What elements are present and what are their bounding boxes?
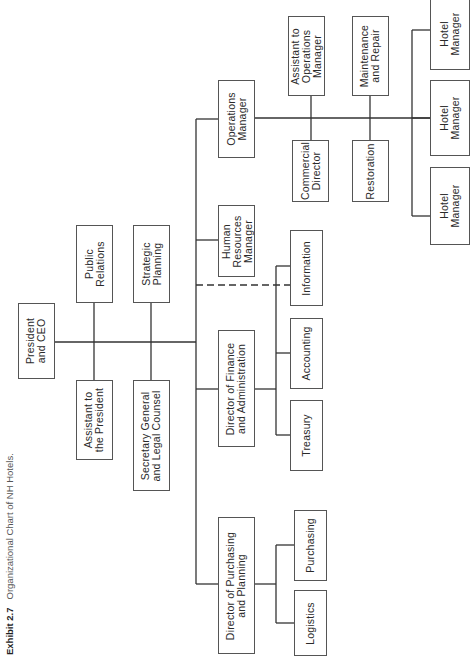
accounting-label: Accounting	[301, 327, 312, 381]
assistant-president-label: Assistant to the President	[84, 388, 106, 452]
caption-title: Organizational Chart of NH Hotels.	[4, 453, 15, 599]
box-public-relations: Public Relations	[76, 225, 113, 303]
restoration-label: Restoration	[365, 143, 376, 199]
box-information: Information	[290, 230, 323, 306]
hotel-manager-2-label: Hotel Manager	[439, 97, 461, 140]
assistant-operations-label: Assistant to Operations Manager	[290, 28, 323, 85]
box-strategic-planning: Strategic Planning	[133, 225, 170, 303]
hotel-manager-3-label: Hotel Manager	[439, 185, 461, 228]
secretary-general-label: Secretary General and Legal Counsel	[141, 390, 163, 481]
information-label: Information	[301, 241, 312, 296]
box-purchasing: Purchasing	[294, 510, 327, 581]
box-assistant-president: Assistant to the President	[76, 380, 113, 460]
public-relations-label: Public Relations	[84, 241, 106, 287]
strategic-planning-label: Strategic Planning	[141, 242, 163, 285]
box-treasury: Treasury	[290, 400, 323, 471]
president-label: President and CEO	[26, 318, 48, 364]
human-resources-label: Human Resources Manager	[220, 215, 253, 267]
purchasing-label: Purchasing	[305, 518, 316, 573]
operations-manager-label: Operations Manager	[226, 92, 248, 145]
box-logistics: Logistics	[294, 590, 327, 656]
logistics-label: Logistics	[305, 602, 316, 645]
maintenance-repair-label: Maintenance and Repair	[360, 25, 382, 87]
box-human-resources: Human Resources Manager	[218, 205, 255, 277]
box-director-finance: Director of Finance and Administration	[218, 330, 255, 447]
box-operations-manager: Operations Manager	[218, 80, 255, 158]
director-finance-label: Director of Finance and Administration	[226, 342, 248, 435]
hotel-manager-1-label: Hotel Manager	[439, 13, 461, 56]
box-accounting: Accounting	[290, 318, 323, 389]
box-assistant-operations: Assistant to Operations Manager	[288, 16, 325, 96]
box-president: President and CEO	[18, 303, 55, 379]
box-hotel-manager-1: Hotel Manager	[430, 0, 470, 70]
box-maintenance-repair: Maintenance and Repair	[352, 16, 389, 96]
exhibit-number: Exhibit 2.7	[4, 607, 15, 655]
box-hotel-manager-3: Hotel Manager	[430, 167, 470, 245]
box-restoration: Restoration	[352, 140, 389, 202]
director-purchasing-label: Director of Purchasing and Planning	[226, 531, 248, 639]
box-secretary-general: Secretary General and Legal Counsel	[133, 380, 170, 491]
treasury-label: Treasury	[301, 414, 312, 457]
commercial-director-label: Commercial Director	[300, 142, 322, 200]
box-hotel-manager-2: Hotel Manager	[430, 80, 470, 156]
box-director-purchasing: Director of Purchasing and Planning	[218, 517, 255, 654]
figure-caption: Exhibit 2.7Organizational Chart of NH Ho…	[4, 453, 15, 655]
box-commercial-director: Commercial Director	[292, 140, 329, 202]
